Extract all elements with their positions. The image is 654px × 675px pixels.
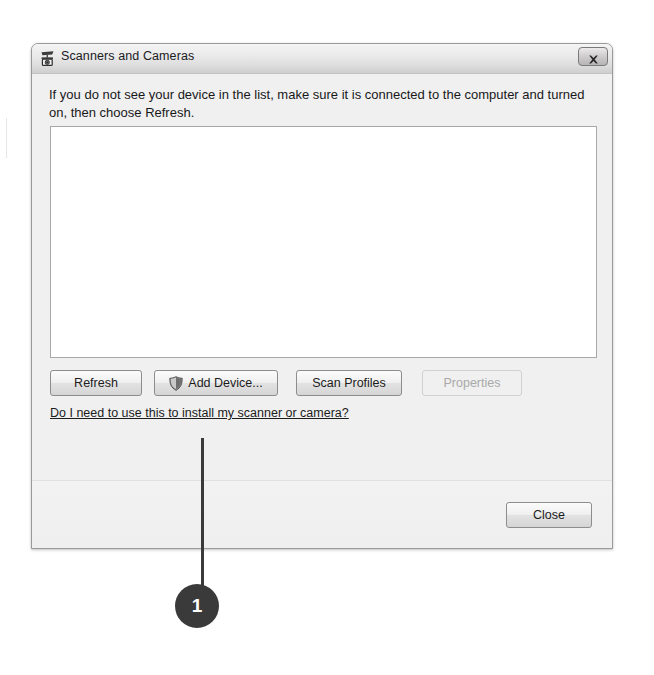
dialog-footer: Close	[32, 480, 612, 548]
instruction-text: If you do not see your device in the lis…	[49, 86, 597, 121]
close-window-button[interactable]	[578, 47, 608, 66]
action-button-row: Refresh Add Device... Scan Profiles Prop…	[50, 370, 597, 396]
refresh-button[interactable]: Refresh	[50, 370, 142, 396]
properties-button: Properties	[422, 370, 522, 396]
device-list[interactable]	[50, 126, 597, 358]
scanners-and-cameras-dialog: Scanners and Cameras If you do not see y…	[31, 43, 613, 549]
close-x-icon	[587, 51, 600, 62]
scan-profiles-button-label: Scan Profiles	[312, 376, 386, 390]
scanner-camera-icon	[39, 50, 56, 67]
add-device-button-label: Add Device...	[188, 376, 262, 390]
refresh-button-label: Refresh	[74, 376, 118, 390]
help-link[interactable]: Do I need to use this to install my scan…	[50, 406, 349, 420]
scan-profiles-button[interactable]: Scan Profiles	[296, 370, 402, 396]
add-device-button[interactable]: Add Device...	[154, 370, 278, 396]
callout-badge-1: 1	[175, 584, 219, 628]
dialog-client-area: If you do not see your device in the lis…	[32, 74, 612, 548]
window-titlebar: Scanners and Cameras	[32, 44, 612, 74]
callout-leader-line	[201, 438, 204, 590]
window-title: Scanners and Cameras	[61, 49, 194, 63]
uac-shield-icon	[169, 376, 183, 391]
properties-button-label: Properties	[444, 376, 501, 390]
page-edge-line	[6, 118, 7, 158]
close-button[interactable]: Close	[506, 502, 592, 528]
close-button-label: Close	[533, 508, 565, 522]
